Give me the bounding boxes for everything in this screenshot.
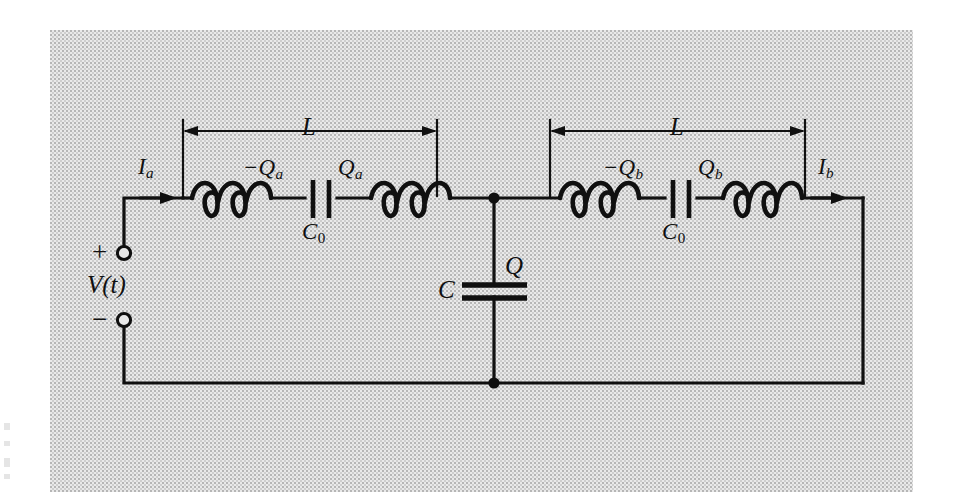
inductor-b1: [560, 183, 639, 216]
wire-source-negative-to-bottom-rail: [124, 320, 494, 383]
charge-label-shunt-Q: Q: [505, 253, 523, 278]
dimension-arrowhead-left-end: [422, 126, 437, 136]
capacitor-label-b-C0-subscript: 0: [678, 229, 686, 246]
current-label-Ia-symbol: I: [138, 154, 146, 179]
charge-label-negative-Qa-symbol: −Q: [243, 155, 275, 180]
capacitor-label-a-C0-subscript: 0: [318, 229, 326, 246]
capacitor-label-b-C0: C0: [662, 220, 685, 245]
charge-label-positive-Qb-subscript: b: [715, 165, 723, 182]
junction-node-bottom: [488, 377, 499, 388]
inductor-b2: [723, 183, 802, 216]
capacitor-a-c0: [313, 180, 329, 218]
source-label-Vt: V(t): [87, 272, 126, 297]
capacitor-label-shunt-C: C: [438, 277, 455, 302]
charge-label-negative-Qa-subscript: a: [275, 165, 283, 182]
current-label-Ib-subscript: b: [826, 164, 834, 181]
current-arrow-b-head: [831, 192, 848, 204]
source-plus-sign: +: [92, 239, 107, 266]
dimension-label-L-left: L: [302, 114, 316, 139]
dimension-arrowhead-left-start: [183, 126, 198, 136]
capacitor-shunt-c: [462, 285, 527, 298]
capacitor-label-b-C0-symbol: C: [662, 219, 677, 244]
charge-label-negative-Qa: −Qa: [243, 156, 283, 181]
capacitor-label-a-C0: C0: [302, 220, 325, 245]
dimension-arrowhead-right-end: [790, 126, 805, 136]
current-label-Ib: Ib: [818, 155, 834, 180]
charge-label-negative-Qb-subscript: b: [635, 165, 643, 182]
charge-label-negative-Qb: −Qb: [603, 156, 643, 181]
inductor-a1: [192, 183, 271, 216]
source-terminal-positive: [117, 246, 130, 259]
charge-label-positive-Qb-symbol: Q: [698, 155, 715, 180]
wire-source-positive-to-top-rail: [124, 198, 183, 253]
junction-node-top: [488, 192, 499, 203]
figure-page: L L Ia Ib −Qa Qa C0 −Qb Qb C0 C Q + − V(…: [0, 0, 965, 504]
dimension-label-L-right: L: [670, 114, 684, 139]
current-label-Ia-subscript: a: [146, 164, 154, 181]
charge-label-positive-Qb: Qb: [698, 156, 723, 181]
capacitor-b-c0: [673, 180, 689, 218]
current-label-Ia: Ia: [138, 155, 154, 180]
charge-label-positive-Qa: Qa: [338, 156, 363, 181]
capacitor-label-a-C0-symbol: C: [302, 219, 317, 244]
charge-label-positive-Qa-subscript: a: [355, 165, 363, 182]
inductor-a2: [371, 183, 450, 216]
source-minus-sign: −: [92, 306, 107, 333]
current-label-Ib-symbol: I: [818, 154, 826, 179]
current-arrow-a-head: [160, 192, 177, 204]
source-terminal-negative: [117, 313, 130, 326]
charge-label-positive-Qa-symbol: Q: [338, 155, 355, 180]
charge-label-negative-Qb-symbol: −Q: [603, 155, 635, 180]
dimension-arrowhead-right-start: [550, 126, 565, 136]
circuit-svg-container: [0, 0, 965, 504]
